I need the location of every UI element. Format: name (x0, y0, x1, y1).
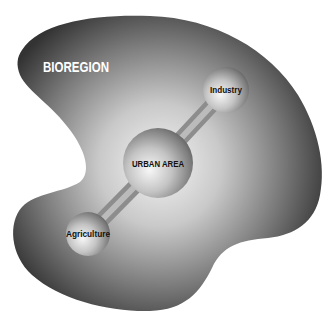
bioregion-label: BIOREGION (43, 58, 109, 75)
bioregion-diagram: BIOREGION URBAN AREA Industry Agricultur… (0, 0, 335, 325)
agriculture-label: Agriculture (66, 229, 110, 239)
urban-area-label: URBAN AREA (132, 159, 184, 169)
industry-label: Industry (210, 85, 242, 95)
